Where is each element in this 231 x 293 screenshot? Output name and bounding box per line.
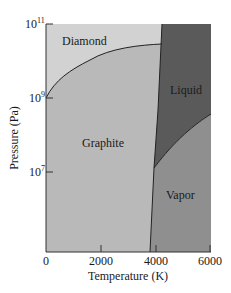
y-tick-label-7: 107 xyxy=(29,164,45,179)
y-tick-label-9: 109 xyxy=(29,90,45,105)
label-diamond: Diamond xyxy=(62,34,107,48)
plot-area xyxy=(46,24,211,252)
y-tick-label-11: 1011 xyxy=(25,16,45,31)
x-axis-title: Temperature (K) xyxy=(88,269,168,283)
x-tick-label-4000: 4000 xyxy=(144,254,168,268)
y-axis-title: Pressure (Pa) xyxy=(7,106,21,170)
phase-diagram-chart: Diamond Graphite Liquid Vapor 1011 109 1… xyxy=(0,0,231,293)
label-vapor: Vapor xyxy=(166,188,195,202)
x-tick-label-2000: 2000 xyxy=(89,254,113,268)
x-tick-label-0: 0 xyxy=(43,254,49,268)
x-tick-label-6000: 6000 xyxy=(198,254,222,268)
label-liquid: Liquid xyxy=(170,83,202,97)
label-graphite: Graphite xyxy=(82,136,124,150)
